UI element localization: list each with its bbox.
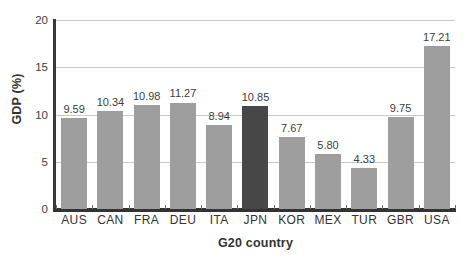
x-axis-tick-labels: AUSCANFRADEUITAJPNKORMEXTURGBRUSA: [56, 213, 455, 231]
y-axis-tick-labels: 05101520: [0, 0, 48, 261]
bar-value-label: 10.34: [97, 96, 125, 108]
x-tick-mark: [419, 205, 420, 209]
y-tick-label: 15: [4, 61, 48, 73]
y-tick-label: 0: [4, 203, 48, 215]
bar-value-label: 4.33: [354, 153, 375, 165]
bar-kor[interactable]: [279, 137, 305, 209]
bar-value-label: 11.27: [170, 87, 197, 99]
x-tick-mark: [455, 205, 456, 209]
bar-tur[interactable]: [351, 168, 377, 209]
bar-mex[interactable]: [315, 154, 341, 209]
bar-value-label: 5.80: [317, 139, 338, 151]
gdp-bar-chart: GDP (%) 05101520 9.5910.3410.9811.278.94…: [0, 0, 470, 261]
bar-value-label: 8.94: [208, 110, 229, 122]
bar-fra[interactable]: [134, 105, 160, 209]
x-tick-label-mex: MEX: [314, 213, 341, 227]
x-tick-label-ita: ITA: [210, 213, 229, 227]
bar-group: 5.80: [310, 20, 346, 209]
y-tick-label: 20: [4, 14, 48, 26]
bar-value-label: 10.98: [133, 90, 161, 102]
x-tick-mark: [382, 205, 383, 209]
bar-value-label: 10.85: [242, 91, 270, 103]
bar-group: 10.34: [92, 20, 128, 209]
bar-group: 8.94: [201, 20, 237, 209]
bar-deu[interactable]: [170, 103, 196, 210]
x-tick-label-jpn: JPN: [244, 213, 268, 227]
bar-jpn[interactable]: [242, 106, 268, 209]
bar-value-label: 7.67: [281, 122, 302, 134]
x-tick-mark: [92, 205, 93, 209]
x-tick-mark: [56, 205, 57, 209]
x-tick-label-deu: DEU: [170, 213, 197, 227]
bar-group: 4.33: [346, 20, 382, 209]
y-tick-label: 5: [4, 156, 48, 168]
x-tick-mark: [346, 205, 347, 209]
bar-value-label: 9.75: [390, 102, 411, 114]
x-tick-label-kor: KOR: [278, 213, 305, 227]
x-axis-tick-marks: [56, 205, 455, 210]
bar-value-label: 9.59: [63, 103, 84, 115]
x-tick-label-tur: TUR: [351, 213, 377, 227]
bar-group: 17.21: [419, 20, 455, 209]
bar-ita[interactable]: [206, 125, 232, 209]
x-tick-label-can: CAN: [97, 213, 124, 227]
x-tick-mark: [201, 205, 202, 209]
bar-group: 10.85: [237, 20, 273, 209]
bars-container: 9.5910.3410.9811.278.9410.857.675.804.33…: [56, 20, 455, 209]
bar-group: 9.59: [56, 20, 92, 209]
bar-gbr[interactable]: [388, 117, 414, 209]
x-tick-mark: [310, 205, 311, 209]
x-tick-mark: [129, 205, 130, 209]
x-tick-mark: [165, 205, 166, 209]
x-tick-mark: [274, 205, 275, 209]
bar-group: 11.27: [165, 20, 201, 209]
x-tick-label-gbr: GBR: [387, 213, 414, 227]
bar-value-label: 17.21: [423, 31, 451, 43]
y-tick-label: 10: [4, 109, 48, 121]
bar-group: 10.98: [129, 20, 165, 209]
bar-group: 9.75: [382, 20, 418, 209]
bar-usa[interactable]: [424, 46, 450, 209]
x-tick-label-aus: AUS: [61, 213, 87, 227]
bar-group: 7.67: [274, 20, 310, 209]
bar-can[interactable]: [97, 111, 123, 209]
x-tick-label-usa: USA: [424, 213, 450, 227]
x-tick-label-fra: FRA: [134, 213, 159, 227]
x-tick-mark: [237, 205, 238, 209]
x-axis-title: G20 country: [56, 236, 455, 250]
bar-aus[interactable]: [61, 118, 87, 209]
